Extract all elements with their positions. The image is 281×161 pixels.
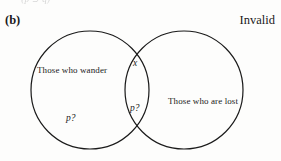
venn-diagram-svg	[0, 0, 281, 161]
right-set-label: Those who are lost	[168, 96, 238, 106]
p-question-mark-left-region: p?	[66, 113, 76, 123]
venn-diagram-figure: ~(p ⊃ q) (b) Invalid Those who wander Th…	[0, 0, 281, 161]
left-set-circle	[31, 31, 149, 149]
right-set-circle	[125, 31, 243, 149]
x-mark-intersection: x	[133, 58, 137, 68]
left-set-label: Those who wander	[37, 65, 107, 75]
p-question-mark-intersection: p?	[130, 103, 140, 113]
